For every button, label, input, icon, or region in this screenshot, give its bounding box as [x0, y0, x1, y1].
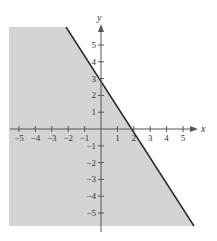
y-tick-label: −4: [86, 191, 96, 201]
y-tick-label: 4: [92, 57, 97, 67]
x-tick-label: 4: [164, 133, 169, 143]
x-tick-label: −5: [14, 133, 24, 143]
x-tick-label: −4: [31, 133, 41, 143]
y-tick-label: −3: [86, 174, 96, 184]
y-axis-label: y: [96, 12, 102, 23]
x-tick-label: 5: [181, 133, 186, 143]
x-tick-label: −2: [63, 133, 73, 143]
x-tick-label: −3: [47, 133, 57, 143]
x-axis-label: x: [200, 123, 206, 134]
y-tick-label: 2: [92, 90, 97, 100]
x-tick-label: 3: [148, 133, 153, 143]
inequality-graph: x −5−4−3−2−112345 y −5−4−3−2−112345: [0, 0, 217, 241]
y-axis-arrow-icon: [98, 24, 104, 32]
x-tick-label: 1: [115, 133, 120, 143]
x-tick-label: 2: [132, 133, 137, 143]
y-tick-label: 1: [92, 107, 97, 117]
x-axis-arrow-icon: [190, 126, 198, 132]
y-tick-label: 5: [92, 40, 97, 50]
y-tick-label: 3: [92, 74, 97, 84]
y-tick-label: −2: [86, 158, 96, 168]
y-tick-label: −1: [86, 141, 96, 151]
y-tick-label: −5: [86, 208, 96, 218]
